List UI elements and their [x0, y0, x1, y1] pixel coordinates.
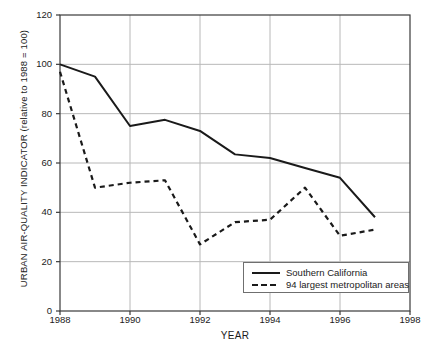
x-tick-label: 1998	[385, 314, 430, 325]
y-tick-label: 100	[24, 58, 52, 69]
legend-label: Southern California	[286, 267, 367, 278]
solid-line-icon	[252, 268, 280, 278]
x-tick-label: 1994	[245, 314, 295, 325]
data-series-2	[60, 72, 375, 245]
x-tick-label: 1990	[105, 314, 155, 325]
x-tick-label: 1996	[315, 314, 365, 325]
chart-figure: URBAN AIR-QUALITY INDICATOR (relative to…	[0, 0, 430, 353]
legend-item-94-largest-metropolitan-areas: 94 largest metropolitan areas	[252, 278, 409, 291]
x-tick-label: 1988	[35, 314, 85, 325]
x-axis-label: YEAR	[60, 330, 410, 341]
chart-plot-area	[0, 0, 430, 353]
x-tick-label: 1992	[175, 314, 225, 325]
y-tick-label: 120	[24, 9, 52, 20]
dashed-line-icon	[252, 280, 280, 290]
y-tick-label: 40	[24, 206, 52, 217]
data-series-1	[60, 64, 375, 217]
y-tick-label: 20	[24, 256, 52, 267]
chart-legend: Southern California 94 largest metropoli…	[243, 262, 409, 293]
y-tick-label: 60	[24, 157, 52, 168]
y-tick-label: 80	[24, 108, 52, 119]
legend-label: 94 largest metropolitan areas	[286, 279, 409, 290]
